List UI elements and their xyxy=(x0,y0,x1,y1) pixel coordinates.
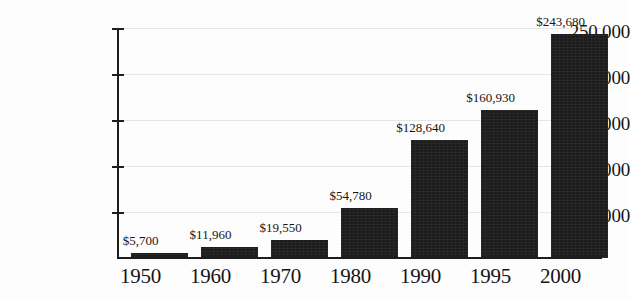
bar-value-1990: $128,640 xyxy=(381,121,460,134)
bars-group xyxy=(119,28,601,258)
bar-value-1960: $11,960 xyxy=(171,228,250,241)
x-tick-label-2000: 2000 xyxy=(521,266,600,287)
bar-value-1995: $160,930 xyxy=(451,91,530,104)
x-tick-label-1970: 1970 xyxy=(241,266,320,287)
x-tick-label-1980: 1980 xyxy=(311,266,390,287)
bar-2000 xyxy=(551,34,608,258)
bar-1980 xyxy=(341,208,398,258)
bar-1970 xyxy=(271,240,328,258)
bar-value-1980: $54,780 xyxy=(311,189,390,202)
bar-chart: 250,000 200,000 150,000 100,000 50,000 $… xyxy=(0,0,630,300)
x-tick-label-1990: 1990 xyxy=(381,266,460,287)
bar-1990 xyxy=(411,140,468,258)
x-tick-label-1995: 1995 xyxy=(451,266,530,287)
bar-1995 xyxy=(481,110,538,258)
x-tick-label-1960: 1960 xyxy=(171,266,250,287)
x-tick-label-1950: 1950 xyxy=(101,266,180,287)
bar-value-1970: $19,550 xyxy=(241,221,320,234)
x-axis-line xyxy=(117,257,602,259)
bar-value-1950: $5,700 xyxy=(101,234,180,247)
bar-value-2000: $243,680 xyxy=(521,15,600,28)
